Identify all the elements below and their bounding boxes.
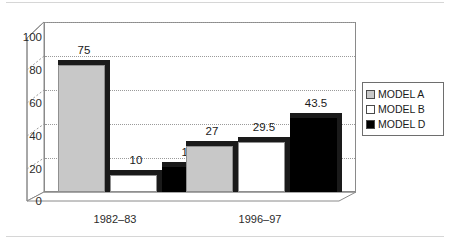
y-tick-label-80: 80 (6, 65, 42, 77)
legend-item-model-a[interactable]: MODEL A (366, 87, 440, 101)
bar-side-face (337, 113, 342, 192)
x-tick-label-1982-83: 1982–83 (60, 214, 170, 225)
bar-value-label-model-b-1982-83: 10 (110, 155, 162, 167)
legend-item-model-d[interactable]: MODEL D (366, 117, 440, 131)
y-axis: 100 80 60 40 20 0 (0, 0, 42, 241)
y-tick-label-60: 60 (6, 98, 42, 110)
y-tick-label-100: 100 (6, 32, 42, 44)
bar-value-label-model-a-1982-83: 75 (58, 45, 110, 57)
x-tick-label-1996-97: 1996–97 (205, 214, 315, 225)
legend-label-model-b: MODEL B (378, 104, 425, 115)
outer-border-bottom (6, 236, 444, 237)
bar-model-b-1982-83[interactable] (110, 170, 162, 192)
bar-front-face (186, 146, 233, 192)
legend-swatch-model-b-icon (366, 105, 375, 114)
legend-label-model-d: MODEL D (378, 119, 425, 130)
legend-label-model-a: MODEL A (378, 89, 424, 100)
gridline-100 (45, 22, 355, 23)
bar-value-label-model-a-1996-97: 27 (186, 126, 238, 138)
bar-model-d-1996-97[interactable] (290, 113, 342, 192)
bar-value-label-model-b-1996-97: 29.5 (238, 122, 290, 134)
bar-front-face (58, 65, 105, 192)
legend-swatch-model-d-icon (366, 120, 375, 129)
bar-chart: 100 80 60 40 20 0 75 10 15 27 29.5 (0, 0, 450, 241)
outer-border-top (6, 2, 444, 3)
bar-front-face (290, 118, 337, 192)
bar-front-face (238, 142, 285, 192)
bar-model-a-1996-97[interactable] (186, 141, 238, 192)
legend-item-model-b[interactable]: MODEL B (366, 102, 440, 116)
chart-legend: MODEL A MODEL B MODEL D (362, 82, 444, 136)
y-tick-label-0: 0 (6, 196, 42, 208)
y-tick-label-20: 20 (6, 164, 42, 176)
bar-value-label-model-d-1996-97: 43.5 (290, 98, 342, 110)
y-tick-label-40: 40 (6, 131, 42, 143)
bar-model-b-1996-97[interactable] (238, 137, 290, 192)
bar-model-a-1982-83[interactable] (58, 60, 110, 192)
legend-swatch-model-a-icon (366, 90, 375, 99)
bar-front-face (110, 175, 157, 192)
